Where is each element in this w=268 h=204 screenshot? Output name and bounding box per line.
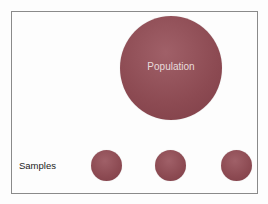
population-label: Population	[147, 61, 194, 72]
sample-circle-1	[91, 150, 122, 181]
samples-label: Samples	[19, 160, 56, 171]
sample-circle-3	[221, 150, 252, 181]
population-circle: Population	[120, 16, 222, 120]
sample-circle-2	[155, 150, 186, 181]
